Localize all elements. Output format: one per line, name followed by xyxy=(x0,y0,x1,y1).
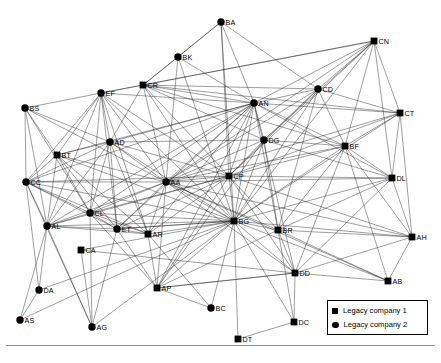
node-label: BG xyxy=(239,217,250,226)
graph-edge xyxy=(90,213,92,327)
node-marker-circle[interactable] xyxy=(35,286,42,293)
node-marker-circle[interactable] xyxy=(97,89,104,96)
graph-node[interactable]: CT xyxy=(397,109,415,118)
graph-node[interactable]: AP xyxy=(154,284,172,293)
node-marker-square[interactable] xyxy=(409,234,416,241)
graph-edge xyxy=(26,182,39,290)
graph-node[interactable]: AL xyxy=(43,222,60,231)
node-marker-circle[interactable] xyxy=(217,18,224,25)
node-marker-square[interactable] xyxy=(140,82,147,89)
graph-node[interactable]: BG xyxy=(231,217,250,226)
graph-node[interactable]: AB xyxy=(385,277,403,286)
graph-node[interactable]: DG xyxy=(260,136,279,145)
node-marker-circle[interactable] xyxy=(162,178,169,185)
graph-node[interactable]: CC xyxy=(22,178,41,187)
node-label: AL xyxy=(52,222,61,231)
graph-node[interactable]: DD xyxy=(292,269,310,278)
node-marker-circle[interactable] xyxy=(16,316,23,323)
graph-node[interactable]: AA xyxy=(162,178,180,187)
node-marker-square[interactable] xyxy=(226,173,233,180)
node-marker-square[interactable] xyxy=(292,270,299,277)
network-diagram-figure: BACNBKCRCDEFANBSCTDGADBFBTDLAACPCCCLBGAL… xyxy=(0,0,441,363)
node-label: CL xyxy=(95,209,104,218)
node-label: BA xyxy=(226,18,236,27)
node-marker-square[interactable] xyxy=(54,152,61,159)
node-label: DL xyxy=(397,174,406,183)
graph-edge xyxy=(374,41,400,113)
graph-node[interactable]: BF xyxy=(342,142,360,151)
node-label: BC xyxy=(216,304,226,313)
node-marker-square[interactable] xyxy=(389,175,396,182)
graph-node[interactable]: ET xyxy=(113,225,131,234)
graph-node[interactable]: BT xyxy=(54,151,72,160)
graph-edge xyxy=(264,140,392,178)
node-marker-circle[interactable] xyxy=(22,178,29,185)
graph-node[interactable]: BR xyxy=(275,226,293,235)
graph-edge xyxy=(148,234,157,288)
node-marker-circle[interactable] xyxy=(260,136,267,143)
graph-node[interactable]: BA xyxy=(217,18,235,27)
node-label: DA xyxy=(44,286,54,295)
node-marker-square[interactable] xyxy=(385,278,392,285)
graph-node[interactable]: DA xyxy=(35,286,53,295)
graph-edge xyxy=(25,108,166,182)
graph-edge xyxy=(294,273,295,322)
graph-node[interactable]: AH xyxy=(409,233,427,242)
node-marker-square[interactable] xyxy=(371,38,378,45)
graph-edge xyxy=(20,221,234,320)
node-marker-square[interactable] xyxy=(235,336,242,343)
node-marker-square[interactable] xyxy=(275,227,282,234)
graph-node[interactable]: AR xyxy=(145,230,163,239)
node-marker-square[interactable] xyxy=(145,231,152,238)
graph-edge xyxy=(117,182,166,229)
graph-edge xyxy=(234,221,388,281)
node-marker-circle[interactable] xyxy=(21,104,28,111)
graph-edge xyxy=(318,89,345,146)
graph-node[interactable]: AG xyxy=(88,323,107,332)
node-marker-square[interactable] xyxy=(154,285,161,292)
node-marker-square[interactable] xyxy=(291,319,298,326)
node-marker-square[interactable] xyxy=(342,143,349,150)
graph-edge xyxy=(143,85,166,182)
graph-node[interactable]: CL xyxy=(86,209,104,218)
node-marker-circle[interactable] xyxy=(88,323,95,330)
graph-node[interactable]: DL xyxy=(389,174,406,183)
graph-node[interactable]: DT xyxy=(235,335,253,344)
node-marker-circle[interactable] xyxy=(314,85,321,92)
node-marker-circle[interactable] xyxy=(207,304,214,311)
node-label: CT xyxy=(405,109,415,118)
graph-edge xyxy=(25,108,26,182)
node-label: DG xyxy=(269,136,280,145)
graph-edge xyxy=(26,182,117,229)
node-label: CN xyxy=(379,37,389,46)
node-marker-square[interactable] xyxy=(397,110,404,117)
legend-label: Legacy company 1 xyxy=(343,307,407,315)
node-marker-circle[interactable] xyxy=(43,222,50,229)
graph-edge xyxy=(166,182,234,221)
graph-node[interactable]: BC xyxy=(207,304,225,313)
graph-edge xyxy=(47,182,166,226)
graph-node[interactable]: BS xyxy=(21,104,39,113)
graph-edge xyxy=(101,93,148,234)
graph-node[interactable]: CR xyxy=(140,81,158,90)
graph-node[interactable]: CP xyxy=(226,172,244,181)
graph-node[interactable]: DC xyxy=(291,318,309,327)
graph-edge xyxy=(234,178,392,221)
graph-node[interactable]: AD xyxy=(106,138,124,147)
node-marker-square[interactable] xyxy=(231,218,238,225)
graph-node[interactable]: CN xyxy=(371,37,389,46)
graph-edge xyxy=(157,273,295,288)
graph-node[interactable]: AS xyxy=(16,316,34,325)
node-marker-circle[interactable] xyxy=(86,209,93,216)
graph-node[interactable]: CA xyxy=(78,246,96,255)
graph-node[interactable]: BK xyxy=(174,53,192,62)
node-marker-circle[interactable] xyxy=(250,99,257,106)
graph-node[interactable]: CD xyxy=(314,85,333,94)
node-label: BR xyxy=(283,226,293,235)
node-marker-square[interactable] xyxy=(78,247,85,254)
node-marker-circle[interactable] xyxy=(106,138,113,145)
graph-node[interactable]: AN xyxy=(250,99,268,108)
graph-node[interactable]: EF xyxy=(97,89,115,98)
node-marker-circle[interactable] xyxy=(174,53,181,60)
node-marker-circle[interactable] xyxy=(113,225,120,232)
